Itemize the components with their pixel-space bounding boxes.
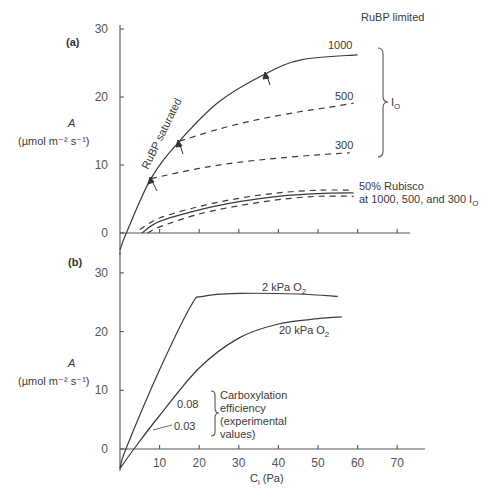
panel-b-y-label: A bbox=[67, 357, 75, 369]
svg-text:values): values) bbox=[220, 428, 255, 440]
x-tick-label: 60 bbox=[351, 456, 365, 470]
series-curve bbox=[151, 153, 350, 179]
panel-a-label: (a) bbox=[66, 36, 80, 48]
series-curve bbox=[179, 103, 353, 141]
x-tick-label: 40 bbox=[272, 456, 286, 470]
panel-b-label: (b) bbox=[68, 256, 82, 268]
series-curve bbox=[148, 196, 354, 233]
panel-b: (b) A (µmol m⁻² s⁻¹) 0102030 10203040506… bbox=[18, 252, 425, 487]
y-tick-label: 30 bbox=[95, 266, 109, 280]
x-axis-label: Ci (Pa) bbox=[250, 472, 284, 487]
figure: (a) A (µmol m⁻² s⁻¹) 0102030 RuBP limite… bbox=[0, 0, 491, 502]
rubp-limited-label: RuBP limited bbox=[361, 11, 424, 23]
panel-b-y-units: (µmol m⁻² s⁻¹) bbox=[18, 375, 90, 387]
y-tick-label: 10 bbox=[95, 383, 109, 397]
panel-a-y-units: (µmol m⁻² s⁻¹) bbox=[18, 135, 90, 147]
panel-a-y-label: A bbox=[67, 117, 75, 129]
label-20kpa-o2: 20 kPa O2 bbox=[279, 324, 330, 339]
panel-a: (a) A (µmol m⁻² s⁻¹) 0102030 RuBP limite… bbox=[18, 11, 478, 255]
efficiency-003-leader bbox=[153, 425, 172, 430]
io-label: IO bbox=[391, 96, 400, 111]
x-tick-label: 70 bbox=[391, 456, 405, 470]
y-tick-label: 20 bbox=[95, 90, 109, 104]
io-500-label: 500 bbox=[335, 90, 353, 102]
efficiency-003-label: 0.03 bbox=[174, 420, 195, 432]
arrow-icon bbox=[176, 140, 183, 154]
y-tick-label: 0 bbox=[101, 226, 108, 240]
svg-text:(experimental: (experimental bbox=[220, 415, 287, 427]
x-tick-label: 50 bbox=[311, 456, 325, 470]
io-1000-label: 1000 bbox=[328, 39, 352, 51]
arrow-icon bbox=[263, 72, 270, 85]
efficiency-008-label: 0.08 bbox=[177, 398, 198, 410]
x-tick-label: 20 bbox=[193, 456, 207, 470]
y-tick-label: 0 bbox=[101, 442, 108, 456]
svg-text:efficiency: efficiency bbox=[220, 402, 266, 414]
y-tick-label: 10 bbox=[95, 158, 109, 172]
y-tick-label: 20 bbox=[95, 325, 109, 339]
svg-text:Carboxylation: Carboxylation bbox=[220, 389, 287, 401]
x-tick-label: 10 bbox=[153, 456, 167, 470]
efficiency-brace bbox=[211, 391, 219, 436]
rubisco-label-line1: 50% Rubisco bbox=[359, 180, 424, 192]
rubisco-label-line2: at 1000, 500, and 300 IO bbox=[359, 193, 478, 208]
arrow-icon bbox=[148, 177, 157, 191]
y-tick-label: 30 bbox=[95, 22, 109, 36]
io-300-label: 300 bbox=[335, 139, 353, 151]
panel-b-curves bbox=[120, 293, 342, 468]
panel-a-x-ticks bbox=[160, 229, 398, 233]
carboxylation-label: Carboxylation efficiency (experimental v… bbox=[220, 389, 287, 440]
rubp-saturated-label: RuBP saturated bbox=[139, 96, 184, 171]
x-tick-label: 30 bbox=[232, 456, 246, 470]
io-brace bbox=[378, 48, 388, 157]
photosynthesis-response-chart: (a) A (µmol m⁻² s⁻¹) 0102030 RuBP limite… bbox=[0, 0, 491, 502]
